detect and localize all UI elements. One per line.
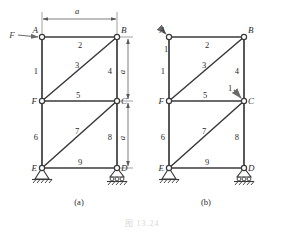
truss-figure: a a a — [0, 0, 284, 238]
joint-E-b — [166, 165, 171, 170]
member-label-8-a: 8 — [108, 132, 112, 142]
panel-a: a a a — [8, 6, 133, 207]
joint-label-F-a: F — [31, 96, 38, 106]
joint-label-A-a: A — [32, 25, 39, 35]
dimension-top-span-a: a — [42, 6, 117, 36]
joint-label-E-b: E — [158, 163, 165, 173]
joint-A-a — [39, 34, 44, 39]
joint-label-C-a: C — [121, 96, 128, 106]
member-label-9-a: 9 — [78, 157, 82, 167]
joint-label-B-a: B — [121, 25, 127, 35]
member-label-7-b: 7 — [202, 126, 206, 136]
member-label-6-b: 6 — [161, 132, 165, 142]
joint-B-a — [114, 34, 119, 39]
panel-label-a: (a) — [74, 197, 84, 207]
joint-F-a — [39, 98, 44, 103]
force-label-F: F — [8, 30, 15, 40]
joint-label-B-b: B — [248, 25, 254, 35]
joint-B-b — [241, 34, 246, 39]
joint-label-E-a: E — [31, 163, 38, 173]
member-label-1-b: 1 — [161, 66, 165, 76]
panel-label-b: (b) — [201, 197, 211, 207]
joint-E-a — [39, 165, 44, 170]
member-label-2-a: 2 — [78, 40, 82, 50]
panel-b: 1 1 A B F C E D 1 2 3 4 5 6 7 8 9 (b) — [158, 25, 256, 207]
member-label-2-b: 2 — [205, 40, 209, 50]
dimension-label-lower-a: a — [117, 136, 127, 140]
joint-label-A-b: A — [159, 25, 166, 35]
joint-A-b — [166, 34, 171, 39]
member-label-5-a: 5 — [76, 90, 80, 100]
joint-C-a — [114, 98, 119, 103]
dimension-upper-height-a: a — [117, 37, 133, 101]
member-label-9-b: 9 — [205, 157, 209, 167]
joint-F-b — [166, 98, 171, 103]
joint-label-F-b: F — [158, 96, 165, 106]
dimension-lower-height-a: a — [117, 103, 133, 168]
joint-C-b — [241, 98, 246, 103]
figure-caption: 图 13.24 — [125, 219, 160, 228]
joint-label-D-a: D — [120, 163, 128, 173]
unit-load-at-C-b: 1 — [228, 83, 241, 98]
member-label-4-b: 4 — [235, 66, 240, 76]
unit-load-label-A: 1 — [164, 44, 168, 54]
member-label-8-b: 8 — [235, 132, 239, 142]
joint-label-C-b: C — [248, 96, 255, 106]
dimension-label-top-a: a — [75, 6, 79, 16]
joint-D-b — [241, 165, 246, 170]
member-label-1-a: 1 — [34, 66, 38, 76]
dimension-label-upper-a: a — [117, 70, 127, 74]
member-label-5-b: 5 — [203, 90, 207, 100]
joint-label-D-b: D — [247, 163, 255, 173]
member-label-3-a: 3 — [75, 60, 79, 70]
member-label-7-a: 7 — [75, 126, 79, 136]
unit-load-label-C: 1 — [228, 83, 232, 93]
member-label-3-b: 3 — [202, 60, 206, 70]
member-label-6-a: 6 — [34, 132, 38, 142]
member-label-4-a: 4 — [108, 66, 113, 76]
joint-D-a — [114, 165, 119, 170]
